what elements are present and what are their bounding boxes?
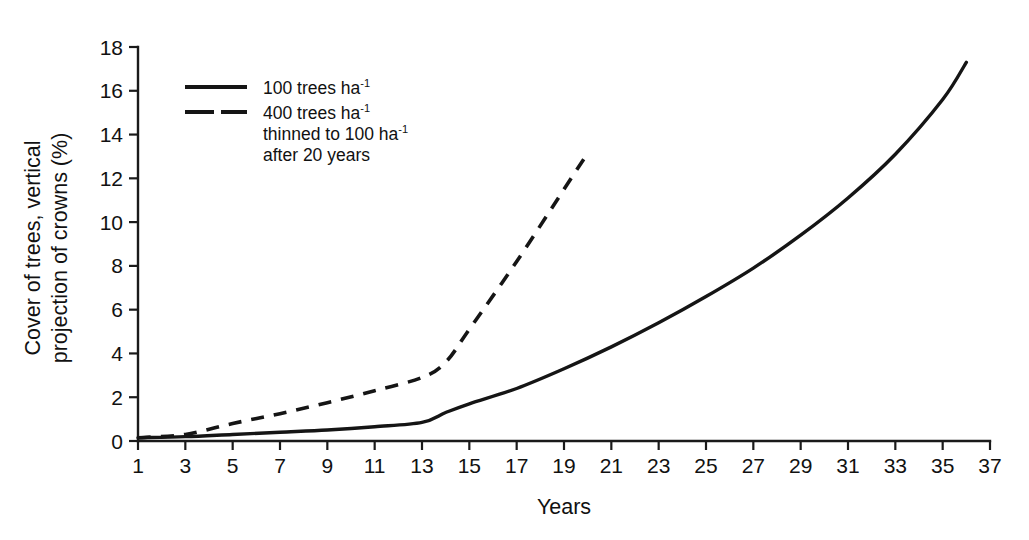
x-tick-label: 35 [931, 454, 954, 477]
y-tick-label: 2 [111, 386, 123, 409]
x-tick-label: 17 [505, 454, 528, 477]
x-tick-label: 23 [647, 454, 670, 477]
x-tick-label: 37 [978, 454, 1001, 477]
x-tick-label: 13 [410, 454, 433, 477]
legend-entry-1-label: 100 trees ha-1 [263, 78, 370, 99]
x-tick-label: 15 [458, 454, 481, 477]
chart-canvas: 024681012141618 135791113151719212325272… [0, 0, 1029, 540]
y-tick-label: 18 [100, 36, 123, 59]
y-axis-title-line1: Cover of trees, vertical [21, 140, 45, 355]
x-tick-label: 9 [321, 454, 333, 477]
x-tick-label: 3 [179, 454, 191, 477]
legend-solid-line-swatch [185, 85, 247, 89]
x-tick-label: 33 [884, 454, 907, 477]
x-tick-marks [138, 441, 990, 450]
y-tick-label: 8 [111, 254, 123, 277]
x-tick-label: 31 [836, 454, 859, 477]
legend-entry-1-sup: -1 [360, 77, 370, 89]
x-tick-label: 29 [789, 454, 812, 477]
x-tick-label: 7 [274, 454, 286, 477]
figure-container: 024681012141618 135791113151719212325272… [0, 0, 1029, 540]
legend-dashed-line-swatch [185, 110, 247, 114]
y-tick-label: 0 [111, 430, 123, 453]
legend-entry-2-text-line1: 400 trees ha [263, 103, 360, 123]
x-tick-label: 21 [600, 454, 623, 477]
y-tick-labels: 024681012141618 [100, 36, 124, 453]
legend-entry-2-sup1: -1 [360, 102, 370, 114]
y-tick-label: 14 [100, 123, 124, 146]
legend-entry-2-sup2: -1 [398, 123, 408, 135]
legend-entry-1-text: 100 trees ha [263, 78, 360, 98]
y-tick-label: 16 [100, 79, 123, 102]
legend-entry-2-label: 400 trees ha-1 thinned to 100 ha-1 after… [263, 103, 408, 166]
y-axis-title-line2: projection of crowns (%) [48, 133, 72, 364]
x-axis-title: Years [537, 495, 591, 519]
y-tick-label: 4 [111, 342, 123, 365]
x-tick-label: 1 [132, 454, 144, 477]
y-tick-label: 10 [100, 211, 123, 234]
series-line-400-trees-thinned [138, 153, 588, 438]
y-tick-marks [129, 47, 138, 441]
x-tick-label: 11 [364, 454, 386, 477]
legend-entry-2-text-line3: after 20 years [263, 145, 370, 165]
x-tick-label: 27 [742, 454, 765, 477]
legend-entry-2-text-line2: thinned to 100 ha [263, 124, 398, 144]
y-tick-label: 6 [111, 298, 123, 321]
x-tick-label: 19 [552, 454, 575, 477]
x-tick-label: 5 [227, 454, 239, 477]
x-tick-label: 25 [694, 454, 717, 477]
page-caption-remnant [0, 526, 1029, 540]
y-tick-label: 12 [100, 167, 123, 190]
x-tick-labels: 135791113151719212325272931333537 [132, 454, 1002, 477]
